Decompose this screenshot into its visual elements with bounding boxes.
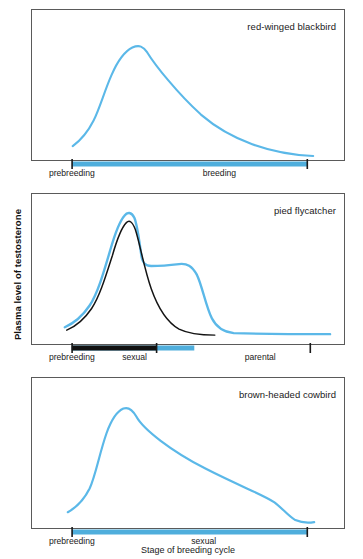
plot-area-brown-headed-cowbird	[32, 378, 344, 528]
curve-testosterone-flycatcher-blue	[65, 213, 330, 334]
curve-testosterone-cowbird	[68, 408, 314, 523]
axis-band-red-winged-blackbird: prebreeding breeding	[31, 159, 345, 185]
stage-label-prebreeding: prebreeding	[49, 352, 95, 362]
stage-label-parental: parental	[245, 352, 276, 362]
stage-label-breeding: breeding	[203, 168, 236, 178]
plot-area-pied-flycatcher	[32, 194, 344, 344]
panel-brown-headed-cowbird: brown-headed cowbird	[31, 377, 345, 529]
curve-testosterone-flycatcher-black	[67, 221, 215, 335]
panel-red-winged-blackbird: red-winged blackbird	[31, 9, 345, 161]
stage-bar-sexual-black	[72, 346, 157, 351]
panel-title-pied-flycatcher: pied flycatcher	[274, 205, 336, 216]
axis-band-pied-flycatcher: prebreeding sexual parental	[31, 343, 345, 369]
stage-bar-breeding-blue	[72, 162, 307, 167]
panel-pied-flycatcher: pied flycatcher	[31, 193, 345, 345]
tick-sexual-end	[307, 527, 309, 537]
y-axis-label: Plasma level of testosterone	[12, 195, 23, 355]
tick-parental-end	[310, 343, 312, 353]
testosterone-breeding-cycle-figure: Plasma level of testosterone red-winged …	[0, 0, 363, 559]
panel-title-red-winged-blackbird: red-winged blackbird	[247, 21, 336, 32]
stage-bar-sexual-blue	[72, 530, 307, 535]
curve-testosterone-blackbird	[73, 46, 313, 156]
x-axis-label: Stage of breeding cycle	[31, 545, 345, 555]
stage-label-sexual: sexual	[122, 352, 147, 362]
panel-title-brown-headed-cowbird: brown-headed cowbird	[239, 389, 336, 400]
tick-sexual-end	[156, 343, 158, 353]
tick-breeding-end	[307, 159, 309, 169]
stage-label-prebreeding: prebreeding	[49, 168, 95, 178]
plot-area-red-winged-blackbird	[32, 10, 344, 160]
